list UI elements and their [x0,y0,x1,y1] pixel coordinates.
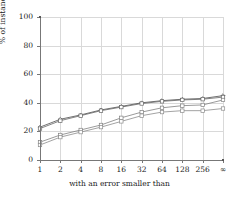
y-axis-tick-label: 80 [10,42,33,50]
x-axis-tick [60,160,61,163]
data-point-marker [140,114,143,117]
data-point-marker [221,107,224,110]
data-point-marker [79,130,82,133]
series-line-3 [40,100,223,142]
data-point-marker [120,105,123,108]
series-line-2 [40,97,223,128]
x-axis-tick-label: 8 [99,166,104,174]
x-axis-tick-label: 256 [195,166,209,174]
x-axis-label: with an error smaller than [0,180,239,188]
x-axis-tick-label: 2 [58,166,63,174]
data-point-marker [120,120,123,123]
data-point-marker [59,119,62,122]
x-axis-tick [81,160,82,163]
data-point-marker [181,109,184,112]
x-axis-tick-label: 128 [175,166,189,174]
x-axis-tick-label: 4 [78,166,83,174]
data-point-marker [59,135,62,138]
x-axis-tick-label: 16 [117,166,127,174]
data-point-marker [140,110,143,113]
y-axis-tick-label: 100 [10,13,33,21]
data-point-marker [201,98,204,101]
y-axis-label: % of instances bounded [0,0,7,44]
x-axis-tick [203,160,204,163]
x-axis-tick [101,160,102,163]
x-axis-tick [40,160,41,163]
y-axis-tick-label: 0 [10,156,33,164]
x-axis-tick [121,160,122,163]
x-axis-tick-label: ∞ [220,166,226,174]
y-axis-tick [37,131,40,132]
x-axis-tick [142,160,143,163]
data-point-marker [79,114,82,117]
y-axis-tick [37,103,40,104]
data-point-marker [201,109,204,112]
data-point-marker [99,109,102,112]
data-point-marker [140,102,143,105]
x-axis-tick [182,160,183,163]
y-axis-tick [37,74,40,75]
data-point-marker [181,104,184,107]
data-point-marker [120,116,123,119]
y-axis-endcap [39,16,41,18]
y-axis-tick [37,46,40,47]
data-point-marker [160,100,163,103]
series-line-4 [40,109,223,145]
data-point-marker [221,98,224,101]
y-axis-tick-label: 60 [10,70,33,78]
chart-figure: 0204060801001248163264128256∞ % of insta… [0,0,239,199]
x-axis-tick-label: 1 [38,166,43,174]
data-point-marker [99,125,102,128]
x-axis-endcap [222,159,224,161]
x-axis-line [40,160,223,161]
x-axis-tick-label: 32 [137,166,147,174]
y-axis-tick-label: 40 [10,99,33,107]
data-point-marker [181,98,184,101]
y-axis-tick-label: 20 [10,127,33,135]
x-axis-tick-label: 64 [157,166,167,174]
series-line-1 [40,96,223,127]
data-point-marker [160,106,163,109]
data-point-marker [160,110,163,113]
y-axis-line [40,17,41,160]
x-axis-tick [162,160,163,163]
data-point-marker [201,103,204,106]
